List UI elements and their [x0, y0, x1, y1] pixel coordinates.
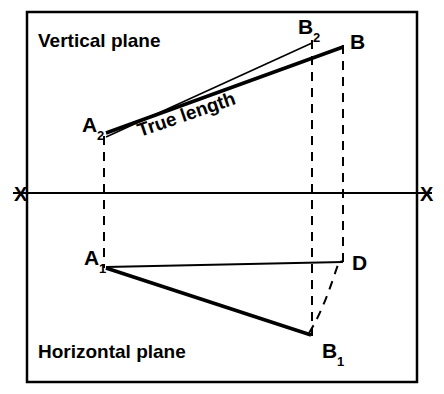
- svg-text:True length: True length: [134, 88, 238, 141]
- label-point-d: D: [352, 251, 367, 274]
- label-horizontal-plane: Horizontal plane: [38, 341, 186, 362]
- line-a1-d: [106, 262, 343, 267]
- svg-text:X: X: [420, 183, 434, 205]
- svg-text:D: D: [352, 251, 367, 274]
- label-axis-left: X: [14, 183, 28, 205]
- svg-text:X: X: [14, 183, 28, 205]
- figure-border: [27, 12, 417, 382]
- svg-text:B: B: [350, 30, 365, 53]
- svg-text:1: 1: [337, 354, 344, 369]
- label-true-length: True length: [134, 88, 238, 141]
- svg-text:A: A: [84, 246, 99, 269]
- label-point-b2: B 2: [298, 15, 320, 45]
- label-vertical-plane: Vertical plane: [38, 30, 161, 51]
- svg-text:Vertical plane: Vertical plane: [38, 30, 161, 51]
- svg-text:2: 2: [97, 128, 104, 143]
- label-point-a1: A 1: [84, 246, 106, 276]
- svg-text:Horizontal plane: Horizontal plane: [38, 341, 186, 362]
- line-a1-b1: [106, 268, 311, 335]
- label-axis-right: X: [420, 183, 434, 205]
- label-point-b: B: [350, 30, 365, 53]
- rotation-arc: [309, 260, 341, 333]
- svg-text:A: A: [82, 113, 97, 136]
- technical-drawing-figure: Vertical plane Horizontal plane True len…: [0, 0, 444, 394]
- svg-text:2: 2: [313, 30, 320, 45]
- label-point-b1: B 1: [322, 339, 344, 369]
- projection-diagram-svg: Vertical plane Horizontal plane True len…: [0, 0, 444, 394]
- svg-text:B: B: [298, 15, 313, 38]
- svg-text:B: B: [322, 339, 337, 362]
- label-point-a2: A 2: [82, 113, 104, 143]
- svg-text:1: 1: [99, 261, 106, 276]
